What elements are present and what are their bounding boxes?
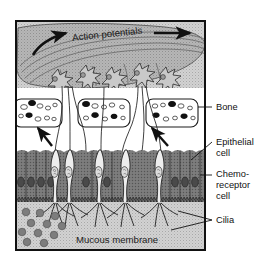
label-bone: Bone xyxy=(216,102,238,112)
bone-cavity xyxy=(14,99,62,127)
bone-cavity xyxy=(146,99,198,127)
mucus-granule xyxy=(50,231,58,239)
mucous-membrane-caption: Mucous membrane xyxy=(76,234,158,245)
label-chemoreceptor-cell-line3: cell xyxy=(216,191,230,201)
bone-cavity xyxy=(78,99,130,127)
bone-cavity-group xyxy=(14,99,198,127)
label-chemoreceptor-cell-line2: receptor xyxy=(216,180,250,190)
label-group: Bone Epithelial cell Chemo- receptor cel… xyxy=(216,102,254,225)
mucus-granule xyxy=(40,239,48,247)
mucus-granule xyxy=(51,212,59,220)
mucus-granule xyxy=(18,228,26,236)
label-chemoreceptor-cell: Chemo- xyxy=(216,169,249,179)
mucus-granule xyxy=(36,209,44,217)
figure-root: Action potentials Mucous membrane Bone E… xyxy=(0,0,260,266)
anatomy-diagram: Action potentials Mucous membrane Bone E… xyxy=(0,0,260,266)
mucus-granule xyxy=(27,219,35,227)
label-epithelial-cell-line2: cell xyxy=(216,148,230,158)
mucus-granule xyxy=(34,229,42,237)
label-cilia: Cilia xyxy=(216,215,235,225)
mucus-granule xyxy=(22,208,30,216)
label-epithelial-cell: Epithelial xyxy=(216,137,254,147)
mucus-granule xyxy=(43,220,51,228)
mucus-granule xyxy=(58,222,66,230)
mucus-granule xyxy=(23,238,31,246)
epithelial-layer xyxy=(16,150,208,202)
